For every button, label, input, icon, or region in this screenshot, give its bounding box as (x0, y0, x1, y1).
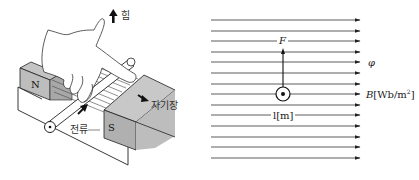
north-pole-label: N (31, 80, 40, 90)
flux-symbol-label: φ (368, 58, 375, 68)
force-symbol-label: F (277, 36, 288, 46)
force-vector (281, 48, 285, 87)
magnetic-field-label: 자기장 (151, 101, 178, 111)
field-line-figure (0, 0, 419, 180)
force-label: 힘 (121, 11, 130, 21)
south-pole-label: S (108, 123, 115, 133)
length-label: l[m] (271, 111, 295, 121)
flux-density-unit: [Wb/m (373, 89, 406, 100)
conductor-out-of-page-icon (276, 87, 290, 101)
flux-density-close: ] (411, 89, 415, 100)
flux-density-label: B[Wb/m2] (366, 89, 415, 100)
current-label: 전류 (70, 125, 88, 135)
diagram-canvas: 힘 자기장 전류 N S F φ B[Wb/m2] l[m] (0, 0, 419, 180)
